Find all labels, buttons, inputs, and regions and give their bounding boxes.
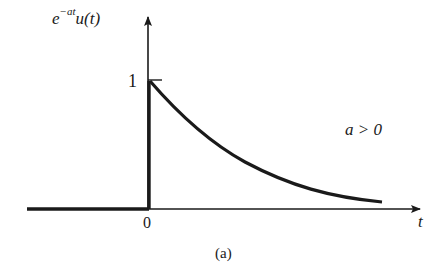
y-label-base: e	[52, 9, 60, 28]
x-axis-label: t	[418, 213, 423, 230]
figure-caption: (a)	[215, 246, 232, 261]
condition-annotation: a > 0	[345, 121, 382, 138]
y-tick-label: 1	[128, 72, 137, 90]
y-label-suffix: u(t)	[76, 9, 101, 28]
x-tick-label: 0	[143, 215, 151, 231]
y-label-exponent: −at	[60, 5, 76, 17]
decay-curve	[150, 81, 382, 202]
y-axis-label: e−atu(t)	[52, 8, 100, 27]
